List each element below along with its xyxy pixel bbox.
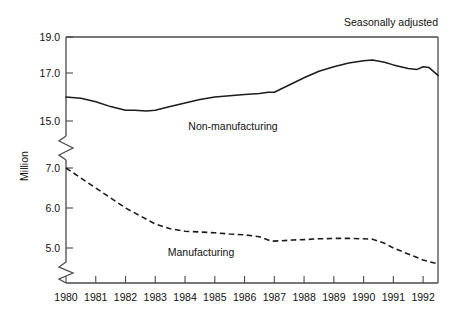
- series-label-non-manufacturing: Non-manufacturing: [188, 120, 277, 132]
- x-tick-label-1983: 1983: [144, 291, 168, 303]
- seasonally-adjusted-annotation: Seasonally adjusted: [344, 16, 438, 28]
- y-tick-label-19: 19.0: [40, 31, 61, 43]
- y-tick-label-7: 7.0: [45, 162, 60, 174]
- y-tick-label-5: 5.0: [45, 242, 60, 254]
- series-line-manufacturing: [66, 168, 438, 264]
- x-tick-label-1980: 1980: [54, 291, 78, 303]
- x-tick-label-1992: 1992: [411, 291, 435, 303]
- x-tick-label-1991: 1991: [382, 291, 406, 303]
- x-tick-labels: 1980 1981 1982 1983 1984 1985 1986 1987 …: [54, 291, 435, 303]
- x-tick-label-1987: 1987: [263, 291, 287, 303]
- employment-line-chart: Seasonally adjusted 19.0 17.0 15.0 7.0 6…: [0, 0, 465, 320]
- x-tick-label-1985: 1985: [203, 291, 227, 303]
- y-tick-label-6: 6.0: [45, 202, 60, 214]
- series-label-manufacturing: Manufacturing: [168, 246, 235, 258]
- x-tick-label-1986: 1986: [233, 291, 257, 303]
- x-tick-marks: [66, 276, 423, 283]
- x-tick-label-1988: 1988: [292, 291, 316, 303]
- y-tick-label-17: 17.0: [40, 67, 61, 79]
- chart-container: Seasonally adjusted 19.0 17.0 15.0 7.0 6…: [0, 0, 465, 320]
- y-tick-label-15: 15.0: [40, 115, 61, 127]
- x-tick-label-1984: 1984: [173, 291, 197, 303]
- x-tick-label-1981: 1981: [84, 291, 108, 303]
- x-tick-label-1989: 1989: [322, 291, 346, 303]
- x-tick-label-1990: 1990: [352, 291, 376, 303]
- y-axis-title: Million: [18, 151, 30, 181]
- series-line-non-manufacturing: [66, 60, 438, 111]
- x-tick-label-1982: 1982: [114, 291, 138, 303]
- y-axis-break-upper: [59, 136, 73, 160]
